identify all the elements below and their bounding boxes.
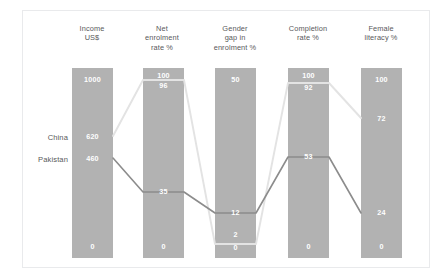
value-label-income-pakistan: 460 (72, 155, 113, 163)
value-label-female-literacy-china: 72 (361, 115, 402, 123)
value-label-gender-gap-pakistan: 12 (215, 209, 256, 217)
column-header-gender-gap: Gender gap in enrolment % (199, 24, 271, 52)
value-label-net-enrolment-max: 100 (143, 72, 184, 80)
value-label-gender-gap-china: 2 (215, 231, 256, 239)
value-label-completion-china: 92 (288, 84, 329, 92)
value-label-female-literacy-min: 0 (361, 243, 402, 251)
value-label-female-literacy-pakistan: 24 (361, 209, 402, 217)
value-label-female-literacy-max: 100 (361, 76, 402, 84)
column-header-completion-rate: Completion rate % (272, 24, 344, 43)
value-label-completion-min: 0 (288, 243, 329, 251)
plot-area: Income US$ Net enrolment rate % Gender g… (0, 0, 447, 280)
value-label-completion-pakistan: 53 (288, 153, 329, 161)
column-header-female-literacy: Female literacy % (345, 24, 417, 43)
axis-bar-income (72, 68, 113, 258)
value-label-gender-gap-min: 0 (215, 244, 256, 252)
column-header-net-enrolment-rate: Net enrolment rate % (127, 24, 197, 52)
parallel-coordinates-chart: Income US$ Net enrolment rate % Gender g… (0, 0, 447, 280)
value-label-net-enrolment-pakistan: 35 (143, 188, 184, 196)
value-label-income-min: 0 (72, 243, 113, 251)
value-label-income-china: 620 (72, 133, 113, 141)
value-label-completion-max: 100 (288, 72, 329, 80)
value-label-gender-gap-max: 50 (215, 76, 256, 84)
value-label-net-enrolment-china: 96 (143, 82, 184, 90)
axis-bar-female-literacy (361, 68, 402, 258)
value-label-net-enrolment-min: 0 (143, 243, 184, 251)
axis-bar-net-enrolment-rate (143, 68, 184, 258)
series-label-pakistan: Pakistan (10, 155, 68, 164)
axis-bar-completion-rate (288, 68, 329, 258)
series-label-china: China (18, 133, 68, 142)
value-label-income-max: 1000 (72, 76, 113, 84)
column-header-income: Income US$ (57, 24, 127, 43)
